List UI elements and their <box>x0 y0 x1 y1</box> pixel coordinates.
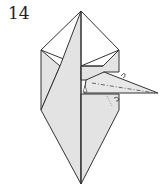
origami-model <box>0 0 164 184</box>
right-lower-body <box>81 94 119 184</box>
fold-arrow-icon <box>121 73 125 78</box>
